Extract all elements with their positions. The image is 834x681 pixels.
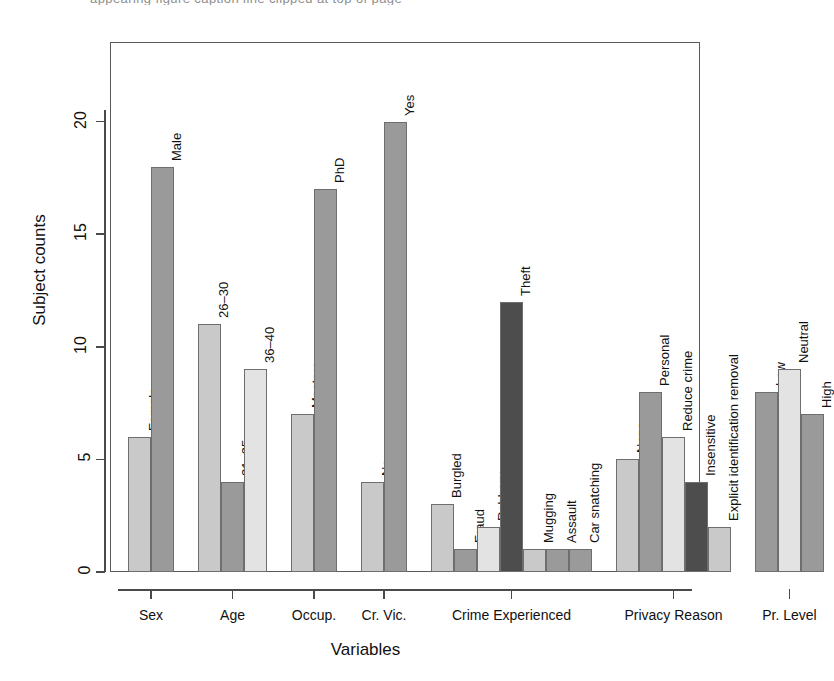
bar (685, 482, 708, 572)
bar-value-label: Theft (518, 266, 533, 296)
bar-value-label: PhD (332, 158, 347, 183)
y-axis-tick-label: 20 (44, 111, 90, 129)
bar-value-label: Personal (657, 335, 672, 386)
bar (291, 414, 314, 572)
x-axis-tick (673, 589, 675, 599)
y-axis-title: Subject counts (30, 190, 50, 350)
bar (500, 302, 523, 572)
bar (778, 369, 801, 572)
bar (477, 527, 500, 572)
bar (244, 369, 267, 572)
x-axis-line (118, 589, 692, 591)
bar (314, 189, 337, 572)
bar-value-label: Burgled (449, 454, 464, 499)
x-axis-group-label: Sex (139, 607, 163, 623)
bar (431, 504, 454, 572)
bar-value-label: Mugging (541, 494, 556, 544)
bar-value-label: High (819, 382, 834, 409)
bar (546, 549, 569, 572)
bar (662, 437, 685, 572)
x-axis-tick (232, 589, 234, 599)
y-axis-tick (96, 346, 105, 348)
bar-value-label: Explicit identification removal (726, 354, 741, 521)
bar-value-label: Insensitive (703, 414, 718, 475)
clipped-caption-fragment: appearing figure caption line clipped at… (90, 0, 680, 5)
x-axis-tick (511, 589, 513, 599)
bar-value-label: Male (169, 132, 184, 160)
bar (454, 549, 477, 572)
bar (708, 527, 731, 572)
x-axis-group-label: Occup. (292, 607, 336, 623)
bar-value-label: Neutral (796, 321, 811, 363)
x-axis-tick (150, 589, 152, 599)
bar (523, 549, 546, 572)
bar (616, 459, 639, 572)
y-axis-tick-label: 0 (44, 561, 90, 579)
y-axis-tick-label-text: 10 (72, 336, 90, 354)
bar-value-label: 26–30 (216, 282, 231, 318)
x-axis-tick (313, 589, 315, 599)
y-axis-tick-label: 10 (44, 336, 90, 354)
bar (569, 549, 592, 572)
bar-value-label: Car snatching (587, 463, 602, 543)
bar-value-label: Yes (402, 94, 417, 115)
x-axis-tick (383, 589, 385, 599)
bar-value-label: 36–40 (262, 327, 277, 363)
y-axis-tick-label: 15 (44, 223, 90, 241)
x-axis-group-label: Cr. Vic. (362, 607, 407, 623)
bar-value-label: Reduce crime (680, 351, 695, 431)
bar (755, 392, 778, 572)
y-axis-tick-label-text: 15 (72, 223, 90, 241)
bar (384, 122, 407, 572)
y-axis-tick (96, 233, 105, 235)
y-axis-tick-label-text: 5 (77, 453, 95, 462)
x-axis-group-label: Privacy Reason (624, 607, 722, 623)
x-axis-group-label: Crime Experienced (452, 607, 571, 623)
bar (198, 324, 221, 572)
y-axis-line (104, 110, 106, 572)
bar-value-label: Assault (564, 501, 579, 544)
x-axis-tick (789, 589, 791, 599)
bar (361, 482, 384, 572)
bar (151, 167, 174, 572)
y-axis-tick-label-text: 20 (72, 111, 90, 129)
y-axis-tick-label: 5 (44, 448, 90, 466)
bar (128, 437, 151, 572)
bar (639, 392, 662, 572)
y-axis-tick (96, 571, 105, 573)
x-axis-title: Variables (0, 640, 731, 660)
y-axis-tick (96, 459, 105, 461)
y-axis-tick-label-text: 0 (77, 566, 95, 575)
bar (221, 482, 244, 572)
x-axis-group-label: Pr. Level (762, 607, 816, 623)
x-axis-group-label: Age (220, 607, 245, 623)
bar (801, 414, 824, 572)
y-axis-tick (96, 121, 105, 123)
